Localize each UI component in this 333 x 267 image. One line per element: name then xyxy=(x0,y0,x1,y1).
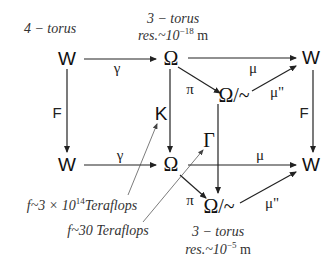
node-omega-quotient-top: Ω/~ xyxy=(218,85,249,105)
node-omega-top: Ω xyxy=(164,48,179,68)
node-w-bottom-right: W xyxy=(302,155,320,174)
node-omega-quotient-bottom: Ω/~ xyxy=(203,196,234,216)
annotation-resolution-top: res.~10−18 m xyxy=(138,27,208,43)
commutative-diagram: W Ω W Ω/~ K W Ω Γ W Ω/~ γ μ π μ" F F γ μ… xyxy=(0,0,333,267)
node-w-bottom-left: W xyxy=(58,155,76,174)
label-pi-bottom: π xyxy=(186,193,194,208)
arrow-pi-top xyxy=(178,67,220,93)
annotation-teraflops-gamma: f~30 Teraflops xyxy=(67,224,148,238)
annotation-resolution-bottom: res.~10−5 m xyxy=(185,241,251,257)
node-omega-bottom: Ω xyxy=(164,154,179,174)
label-f-left: F xyxy=(52,105,61,120)
label-mu-sharp-top: μ" xyxy=(270,85,284,100)
node-gamma-capital: Γ xyxy=(203,130,215,150)
label-f-right: F xyxy=(299,105,308,120)
node-w-top-left: W xyxy=(58,49,76,68)
node-w-top-right: W xyxy=(302,48,320,67)
label-pi-top: π xyxy=(186,82,194,97)
label-gamma-top: γ xyxy=(114,61,121,76)
annotation-three-torus-bottom: 3 − torus xyxy=(192,225,244,239)
label-gamma-bottom: γ xyxy=(117,148,124,163)
pointer-teraflops-k xyxy=(128,124,157,195)
annotation-teraflops-k: f~3 × 1014Teraflops xyxy=(27,197,137,213)
label-mu-bottom: μ xyxy=(256,148,264,163)
annotation-three-torus-top: 3 − torus xyxy=(147,12,199,26)
annotation-four-torus: 4 − torus xyxy=(24,22,76,36)
node-k: K xyxy=(155,104,168,123)
label-mu-sharp-bottom: μ" xyxy=(265,196,279,211)
label-mu-top: μ xyxy=(249,61,257,76)
